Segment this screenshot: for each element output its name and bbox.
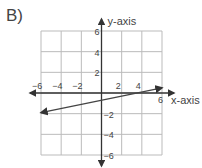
x-tick-label: 4 xyxy=(136,81,141,91)
x-tick-label: −4 xyxy=(52,81,62,91)
x-axis-label: x-axis xyxy=(171,94,200,106)
coordinate-plane: x-axisy-axis−6−4−2246642−2−4−6 xyxy=(0,0,202,168)
x-tick-label: −2 xyxy=(72,81,82,91)
x-tick-label: 2 xyxy=(116,81,121,91)
y-tick-label: 2 xyxy=(95,68,100,78)
y-tick-label: −4 xyxy=(104,130,114,140)
x-tick-label: 6 xyxy=(158,95,163,105)
y-axis-label: y-axis xyxy=(108,15,137,27)
y-tick-label: 6 xyxy=(95,27,100,37)
y-tick-label: −2 xyxy=(104,110,114,120)
y-tick-label: −6 xyxy=(104,151,114,161)
x-tick-label: −6 xyxy=(32,81,42,91)
y-tick-label: 4 xyxy=(95,48,100,58)
